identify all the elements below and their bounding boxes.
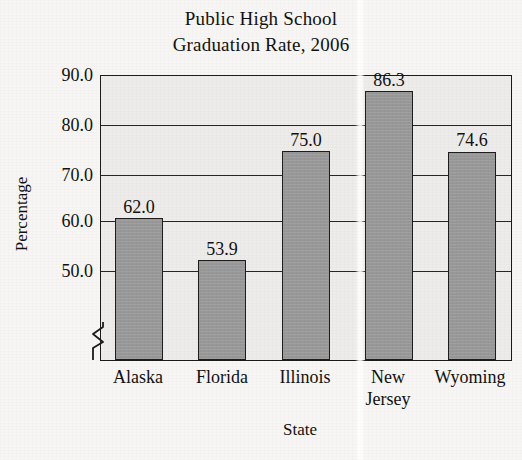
plot-area: [100, 75, 512, 361]
bar-wyoming[interactable]: [448, 152, 496, 360]
bar-value-alaska: 62.0: [109, 198, 169, 216]
gridline-80: [101, 125, 511, 126]
x-axis-title: State: [0, 420, 522, 440]
y-axis-break-zigzag-icon: [88, 322, 110, 360]
x-tick-label-wyoming-line-1: Wyoming: [420, 366, 520, 388]
y-tick-label-60: 60.0: [62, 212, 94, 230]
y-axis-title: Percentage: [12, 154, 32, 274]
x-tick-label-wyoming: Wyoming: [420, 366, 520, 388]
y-tick-label-90: 90.0: [62, 66, 94, 84]
bar-illinois[interactable]: [282, 151, 330, 360]
bar-value-florida: 53.9: [192, 240, 252, 258]
y-tick-label-80: 80.0: [62, 116, 94, 134]
bar-new-jersey[interactable]: [365, 91, 413, 360]
bar-value-wyoming: 74.6: [442, 131, 502, 149]
bar-value-new-jersey: 86.3: [359, 71, 419, 89]
bar-value-illinois: 75.0: [276, 131, 336, 149]
bar-florida[interactable]: [198, 260, 246, 360]
bar-alaska[interactable]: [115, 218, 163, 360]
y-tick-label-50: 50.0: [62, 262, 94, 280]
x-tick-label-new-jersey-line-2: Jersey: [338, 388, 438, 410]
y-tick-label-70: 70.0: [62, 166, 94, 184]
